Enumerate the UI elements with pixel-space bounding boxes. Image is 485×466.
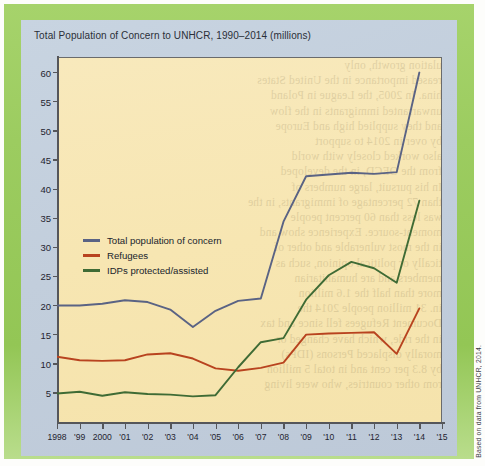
legend-item: IDPs protected/assisted — [83, 263, 222, 278]
chart-legend: Total population of concern Refugees IDP… — [83, 233, 222, 278]
legend-swatch-idps — [83, 269, 100, 272]
figure-root: Total Population of Concern to UNHCR, 19… — [0, 0, 485, 466]
source-note: Based on data from UNHCR, 2014. — [475, 345, 482, 458]
legend-label-idps: IDPs protected/assisted — [107, 265, 208, 276]
series-line — [57, 73, 419, 328]
legend-swatch-total — [83, 239, 100, 242]
legend-label-refugees: Refugees — [107, 250, 148, 261]
series-line — [57, 201, 419, 397]
series-line — [57, 308, 419, 370]
legend-label-total: Total population of concern — [107, 235, 222, 246]
chart-panel: Total Population of Concern to UNHCR, 19… — [21, 20, 457, 456]
legend-swatch-refugees — [83, 254, 100, 257]
legend-item: Total population of concern — [83, 233, 222, 248]
legend-item: Refugees — [83, 248, 222, 263]
